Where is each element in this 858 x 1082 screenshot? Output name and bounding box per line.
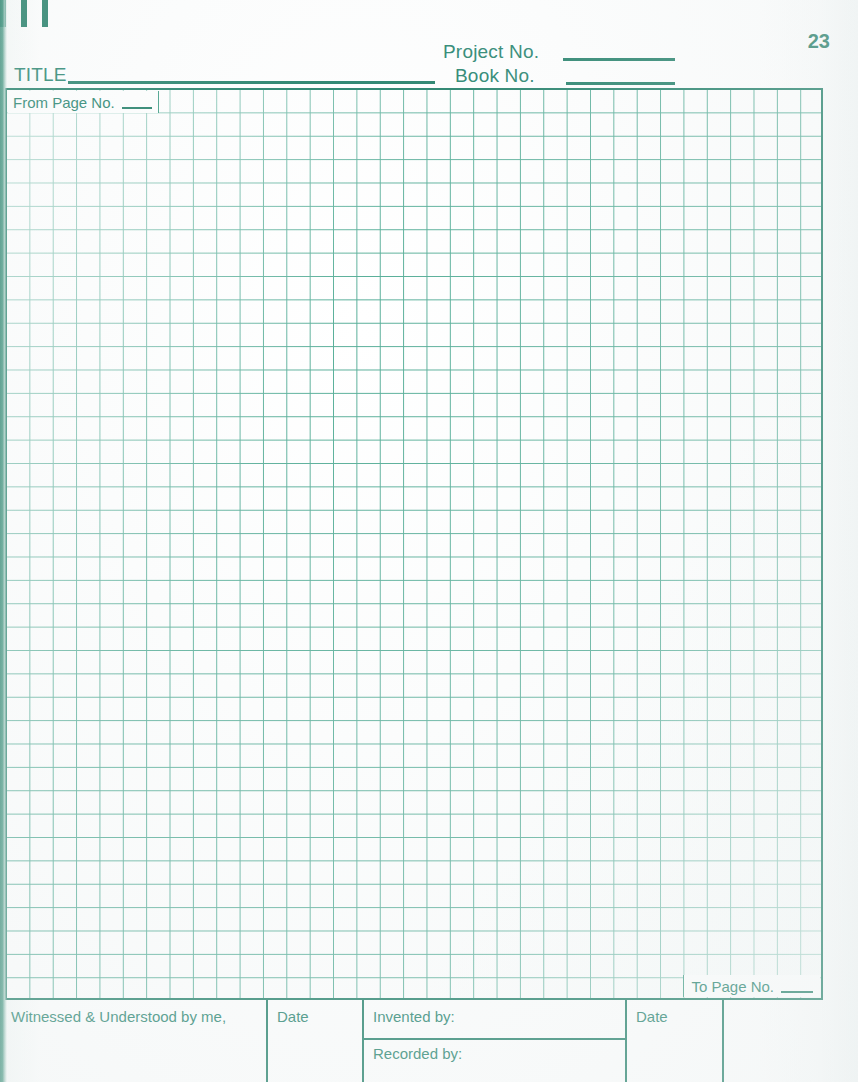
page-header: 23 Project No. Book No. TITLE [0,0,858,88]
title-label: TITLE [14,64,67,86]
footer-divider-5 [362,1038,627,1040]
paper-sheen [7,90,821,998]
to-page-no-field[interactable] [781,980,813,993]
footer-divider-4 [722,1000,724,1082]
page-number: 23 [808,30,830,53]
graph-grid[interactable]: From Page No. To Page No. [5,88,823,1000]
title-field[interactable] [68,81,435,84]
book-no-label: Book No. [455,65,535,87]
from-page-no[interactable]: From Page No. [8,91,159,113]
witness-date-label: Date [277,1008,309,1025]
invented-date-label: Date [636,1008,668,1025]
project-no-field[interactable] [563,58,675,61]
from-page-no-label: From Page No. [13,94,115,111]
from-page-no-field[interactable] [122,96,152,109]
signature-footer: Witnessed & Understood by me, Date Inven… [5,1000,823,1082]
to-page-no-label: To Page No. [691,978,774,995]
project-no-label: Project No. [443,41,539,63]
binding-shadow [0,0,7,1082]
footer-divider-3 [625,1000,627,1082]
witnessed-by-label: Witnessed & Understood by me, [11,1008,226,1025]
footer-divider-2 [362,1000,364,1082]
recorded-by-label: Recorded by: [373,1045,462,1062]
notebook-page: 23 Project No. Book No. TITLE From Page … [0,0,858,1082]
book-no-field[interactable] [566,82,675,85]
invented-by-label: Invented by: [373,1008,455,1025]
to-page-no[interactable]: To Page No. [683,975,820,997]
footer-divider-1 [266,1000,268,1082]
